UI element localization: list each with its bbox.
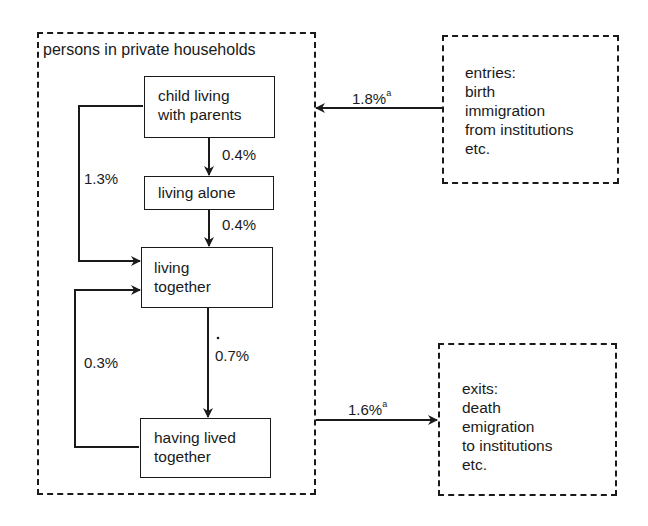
- exits-item: death: [462, 398, 615, 417]
- container-title: persons in private households: [43, 40, 256, 59]
- node-together-line1: living: [154, 258, 272, 277]
- node-lived-line1: having lived: [154, 428, 270, 447]
- flow-label-exits: 1.6%a: [348, 397, 387, 419]
- flow-label-child-to-alone: 0.4%: [222, 146, 256, 164]
- entries-rate: 1.8%: [352, 90, 386, 107]
- node-together-line2: together: [154, 277, 272, 296]
- flow-label-entries: 1.8%a: [352, 86, 391, 108]
- entries-heading: entries:: [465, 63, 617, 82]
- node-child-line1: child living: [158, 86, 274, 105]
- exits-item: emigration: [462, 417, 615, 436]
- exits-item: to institutions: [462, 436, 615, 455]
- flow-label-lived-to-together: 0.3%: [84, 354, 118, 372]
- flow-label-child-to-together: 1.3%: [84, 170, 118, 188]
- flow-label-together-to-lived: 0.7%: [215, 347, 249, 365]
- node-child-line2: with parents: [158, 105, 274, 124]
- node-alone-label: living alone: [158, 184, 236, 201]
- exits-footnote: a: [382, 399, 387, 409]
- exits-box: exits: death emigration to institutions …: [438, 343, 617, 496]
- node-living-together: living together: [141, 247, 273, 308]
- entries-box: entries: birth immigration from institut…: [442, 35, 619, 184]
- entries-item: etc.: [465, 139, 617, 158]
- exits-rate: 1.6%: [348, 401, 382, 418]
- node-having-lived-together: having lived together: [140, 418, 271, 478]
- entries-item: immigration: [465, 101, 617, 120]
- entries-item: from institutions: [465, 120, 617, 139]
- entries-footnote: a: [386, 88, 391, 98]
- exits-heading: exits:: [462, 379, 615, 398]
- node-living-alone: living alone: [144, 176, 274, 210]
- flow-label-alone-to-together: 0.4%: [222, 216, 256, 234]
- exits-item: etc.: [462, 455, 615, 474]
- node-lived-line2: together: [154, 447, 270, 466]
- entries-item: birth: [465, 82, 617, 101]
- node-child-living-with-parents: child living with parents: [144, 76, 275, 138]
